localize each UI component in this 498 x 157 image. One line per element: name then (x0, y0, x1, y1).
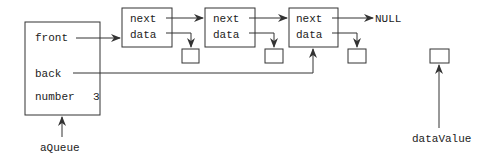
node-next-label: next (130, 13, 156, 25)
data-item-box (182, 49, 199, 63)
node-next-label: next (213, 13, 239, 25)
data-value-box (430, 49, 449, 63)
front-field-label: front (35, 32, 68, 44)
number-field-label: number (35, 91, 75, 103)
aqueue-label: aQueue (40, 142, 80, 154)
data-item-box (348, 49, 366, 63)
node-next-label: next (296, 13, 322, 25)
list-node-1: next data (122, 8, 172, 47)
queue-object: front back number 3 (25, 22, 100, 115)
node-data-label: data (296, 29, 323, 41)
back-field-label: back (35, 68, 62, 80)
node-data-label: data (130, 29, 157, 41)
data-value-label: dataValue (412, 133, 471, 145)
list-node-3: next data (289, 8, 338, 47)
node-data-label: data (213, 29, 240, 41)
data-item-box (265, 49, 283, 63)
number-field-value: 3 (93, 91, 100, 103)
null-label: NULL (375, 13, 401, 25)
queue-linked-list-diagram: front back number 3 aQueue next data nex… (0, 0, 498, 157)
list-node-2: next data (205, 8, 255, 47)
